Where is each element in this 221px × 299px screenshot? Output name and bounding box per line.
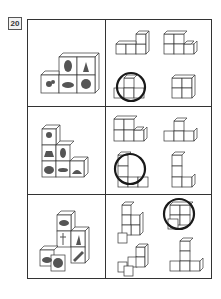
- item-number-label: 20: [8, 17, 22, 30]
- option-1d[interactable]: [172, 75, 195, 98]
- option-3d[interactable]: [170, 238, 203, 271]
- shape-options-3: [106, 195, 211, 278]
- puzzle-row-2: [28, 107, 211, 195]
- picture-stack-1: [28, 20, 106, 106]
- puzzle-sheet: [27, 19, 212, 279]
- shape-options-2: [106, 107, 211, 194]
- option-1b[interactable]: [164, 31, 197, 54]
- puzzle-row-1: [28, 20, 211, 107]
- option-3a[interactable]: [118, 202, 143, 243]
- shape-options-1: [106, 20, 211, 106]
- option-3c[interactable]: [118, 244, 148, 276]
- puzzle-row-3: [28, 195, 211, 278]
- option-2b[interactable]: [164, 118, 197, 141]
- option-1a[interactable]: [116, 31, 149, 54]
- cube-stack-illustration: [28, 107, 106, 195]
- picture-stack-3: [28, 195, 106, 278]
- option-2a[interactable]: [114, 116, 147, 141]
- cube-stack-illustration: [28, 20, 106, 106]
- cube-stack-illustration: [28, 195, 106, 278]
- picture-stack-2: [28, 107, 106, 194]
- option-2d[interactable]: [172, 152, 195, 187]
